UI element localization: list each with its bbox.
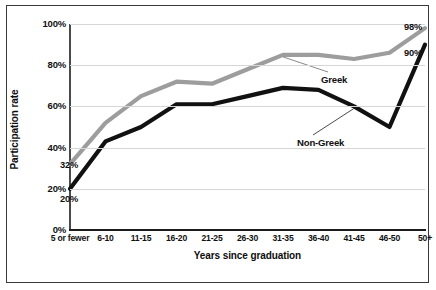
point-label-greek-first: 32% <box>60 160 78 170</box>
y-tick-label: 100% <box>30 18 66 29</box>
series-label-non-greek: Non-Greek <box>297 137 344 148</box>
series-label-greek: Greek <box>321 74 347 85</box>
y-axis-title: Participation rate <box>8 64 22 194</box>
x-axis-title: Years since graduation <box>70 250 425 261</box>
leader-line-non-greek <box>313 108 354 135</box>
x-tick-label: 50+ <box>399 233 436 243</box>
y-axis-title-text: Participation rate <box>10 89 21 169</box>
plot-area <box>70 24 425 230</box>
line-non-greek <box>70 45 425 189</box>
y-tick-label: 20% <box>30 183 66 194</box>
gridline <box>70 24 425 25</box>
point-label-greek-last: 98% <box>404 22 422 32</box>
series-lines <box>70 24 425 230</box>
y-tick-label: 80% <box>30 59 66 70</box>
gridline <box>70 189 425 190</box>
gridline <box>70 65 425 66</box>
point-label-non-greek-first: 20% <box>60 194 78 204</box>
x-axis-ticks: 5 or fewer6-1011-1516-2021-2526-3031-353… <box>70 233 425 247</box>
y-tick-label: 60% <box>30 100 66 111</box>
y-tick-label: 40% <box>30 142 66 153</box>
gridline <box>70 148 425 149</box>
chart-figure: Participation rate 0%20%40%60%80%100% 5 … <box>0 0 436 290</box>
point-label-non-greek-last: 90% <box>404 48 422 58</box>
gridline <box>70 106 425 107</box>
